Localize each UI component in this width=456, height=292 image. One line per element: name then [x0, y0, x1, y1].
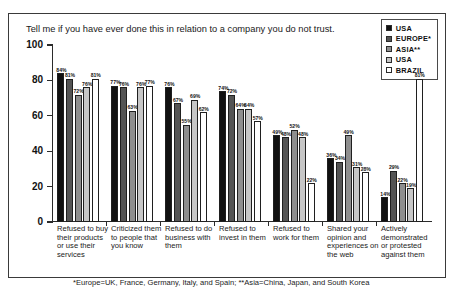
bar — [353, 167, 360, 222]
x-axis-category-label: Refused to work for them — [273, 225, 325, 242]
chart-question-title: Tell me if you have ever done this in re… — [26, 24, 335, 34]
bar — [308, 183, 315, 222]
breadcrumb: •••••••• ••••••••••• •••••• — [10, 0, 148, 4]
bar — [66, 79, 73, 222]
bar-group: 36%34%49%31%28% — [323, 45, 377, 222]
bar-value-label: 22% — [307, 177, 317, 183]
bar — [146, 86, 153, 222]
y-axis-tick — [47, 186, 53, 187]
bar — [237, 109, 244, 222]
x-axis-category-label: Criticized them to people that you know — [111, 225, 163, 251]
bar — [273, 135, 280, 222]
bar — [245, 109, 252, 222]
legend-swatch-icon — [386, 36, 392, 42]
bar-value-label: 62% — [199, 106, 209, 112]
bar-value-label: 28% — [361, 166, 371, 172]
bar — [219, 91, 226, 222]
bar — [228, 95, 235, 222]
bar-value-label: 67% — [173, 97, 183, 103]
bar-value-label: 77% — [145, 79, 155, 85]
bar-group: 77%76%63%76%77% — [107, 45, 161, 222]
x-axis-category-label: Refused to do business with them — [165, 225, 217, 251]
bar — [362, 172, 369, 222]
plot-area: 84%81%72%76%81%77%76%63%76%77%76%67%55%6… — [53, 45, 431, 222]
legend-label: EUROPE* — [396, 34, 431, 43]
bar-value-label: 69% — [190, 93, 200, 99]
y-axis-tick — [47, 80, 53, 81]
y-axis-tick-label: 0 — [13, 216, 43, 227]
bar — [254, 121, 261, 222]
y-axis-tick — [47, 221, 53, 222]
top-crumb-strip: •••••••• ••••••••••• •••••• — [0, 0, 456, 12]
bar-value-label: 76% — [164, 81, 174, 87]
y-axis-tick-label: 60 — [13, 110, 43, 121]
bar-group: 84%81%72%76%81% — [53, 45, 107, 222]
chart-frame: Tell me if you have ever done this in re… — [8, 13, 446, 278]
bar — [191, 100, 198, 222]
bar — [129, 111, 136, 223]
y-axis-tick-label: 80 — [13, 74, 43, 85]
bar — [137, 87, 144, 222]
x-axis-category-label: Refused to invest in them — [219, 225, 271, 242]
bar — [336, 162, 343, 222]
bar — [183, 125, 190, 222]
bar-group: 76%67%55%69%62% — [161, 45, 215, 222]
x-axis-category-label: Actively demonstrated or protested again… — [381, 225, 433, 259]
bar-value-label: 76% — [119, 81, 129, 87]
bar — [57, 73, 64, 222]
bar-group: 74%72%64%64%57% — [215, 45, 269, 222]
bar — [282, 137, 289, 222]
bar — [407, 188, 414, 222]
bar-value-label: 64% — [244, 102, 254, 108]
bar-value-label: 52% — [290, 123, 300, 129]
bar-group: 49%48%52%48%22% — [269, 45, 323, 222]
bar-value-label: 29% — [389, 164, 399, 170]
bar — [200, 112, 207, 222]
bar-value-label: 81% — [65, 72, 75, 78]
bar-group: 14%29%22%19%81% — [377, 45, 431, 222]
y-axis-tick-label: 20 — [13, 181, 43, 192]
legend-item-usa-0: USA — [386, 23, 431, 34]
y-axis-tick — [47, 44, 53, 45]
bar — [165, 87, 172, 222]
bar-value-label: 48% — [298, 131, 308, 137]
y-axis-tick — [47, 115, 53, 116]
bar — [75, 95, 82, 222]
bar — [381, 197, 388, 222]
x-axis-category-label: Refused to buy their products or use the… — [57, 225, 109, 259]
bar — [92, 79, 99, 222]
bar-value-label: 81% — [415, 72, 425, 78]
bar — [83, 87, 90, 222]
bar-value-label: 72% — [227, 88, 237, 94]
legend-label: USA — [396, 24, 412, 33]
legend-item-europe-1: EUROPE* — [386, 34, 431, 45]
bar — [390, 171, 397, 222]
y-axis-tick-label: 100 — [13, 39, 43, 50]
bar — [291, 130, 298, 222]
x-axis-category-label: Shared your opinion and experiences on t… — [327, 225, 379, 259]
bar-value-label: 81% — [91, 72, 101, 78]
legend-swatch-icon — [386, 25, 392, 31]
bar — [399, 183, 406, 222]
chart-footnote: *Europe=UK, France, Germany, Italy, and … — [73, 278, 369, 287]
bar — [120, 87, 127, 222]
bar — [345, 135, 352, 222]
bar-value-label: 57% — [253, 115, 263, 121]
bar — [174, 103, 181, 222]
bar — [416, 79, 423, 222]
bar — [327, 158, 334, 222]
y-axis-tick — [47, 151, 53, 152]
bar — [299, 137, 306, 222]
bar-value-label: 49% — [344, 129, 354, 135]
bar — [111, 86, 118, 222]
y-axis-tick-label: 40 — [13, 145, 43, 156]
